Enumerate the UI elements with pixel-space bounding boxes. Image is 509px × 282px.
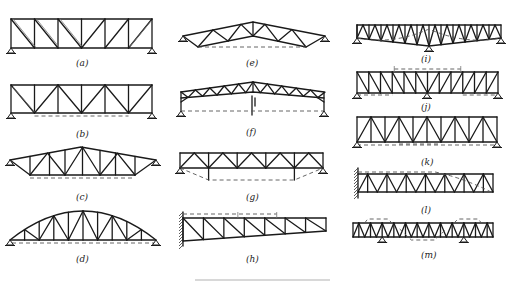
- truss-member: [237, 153, 251, 168]
- truss-member: [435, 223, 441, 237]
- panel-label-f: (f): [246, 127, 257, 137]
- truss-member: [309, 153, 323, 168]
- truss-member: [224, 86, 231, 94]
- truss-member: [416, 174, 426, 192]
- truss-member: [413, 117, 427, 142]
- truss-member: [411, 223, 417, 237]
- truss-panel-k: [352, 117, 502, 148]
- truss-member: [127, 230, 142, 240]
- truss-member: [423, 25, 429, 46]
- pin-support-icon: [6, 48, 16, 54]
- pin-support-icon: [424, 46, 434, 52]
- truss-member: [35, 19, 59, 48]
- truss-member: [194, 153, 208, 168]
- truss-panel-e: [178, 22, 330, 47]
- truss-member: [388, 223, 394, 237]
- truss-member: [359, 223, 365, 237]
- truss-member: [399, 117, 413, 142]
- truss-member: [463, 72, 475, 93]
- pin-support-icon: [147, 113, 157, 119]
- truss-member: [447, 25, 453, 43]
- truss-member: [476, 223, 482, 237]
- truss-member: [417, 223, 423, 237]
- truss-member: [429, 25, 435, 46]
- truss-member: [180, 153, 194, 168]
- truss-member: [369, 25, 375, 39]
- truss-panel-d: [5, 211, 161, 246]
- truss-member: [181, 98, 187, 102]
- truss-chord: [183, 22, 325, 36]
- truss-member: [455, 117, 469, 142]
- truss-member: [280, 153, 294, 168]
- panel-label-m: (m): [421, 250, 437, 260]
- double-line: [37, 19, 60, 47]
- tie-line: [180, 168, 323, 180]
- truss-panel-g: [175, 153, 328, 180]
- pin-support-icon: [6, 113, 16, 119]
- truss-member: [446, 223, 452, 237]
- truss-member: [241, 24, 253, 36]
- truss-member: [195, 90, 202, 96]
- pin-support-icon: [493, 93, 503, 99]
- truss-member: [363, 25, 369, 39]
- truss-member: [397, 174, 407, 192]
- truss-member: [58, 85, 82, 113]
- truss-member: [265, 218, 285, 234]
- truss-member: [394, 223, 400, 237]
- truss-member: [25, 230, 40, 240]
- truss-member: [11, 19, 35, 48]
- truss-member: [441, 223, 447, 237]
- double-line: [130, 21, 152, 47]
- truss-member: [368, 174, 378, 192]
- truss-member: [357, 25, 363, 38]
- truss-member: [246, 82, 253, 93]
- truss-member: [83, 147, 101, 175]
- truss-member: [474, 174, 484, 192]
- double-line: [13, 87, 35, 112]
- truss-member: [83, 211, 98, 240]
- pin-support-icon: [319, 111, 329, 117]
- truss-member: [365, 223, 371, 237]
- truss-member: [82, 19, 106, 48]
- truss-member: [210, 88, 217, 95]
- panel-label-g: (g): [246, 192, 259, 202]
- truss-member: [213, 30, 228, 41]
- truss-member: [475, 72, 487, 93]
- truss-member: [387, 174, 397, 192]
- truss-member: [477, 25, 483, 41]
- truss-member: [105, 85, 129, 113]
- truss-figure: (a) (b) (c) (d) (e) (f) (g) (h) (i) (j) …: [0, 0, 509, 282]
- truss-member: [98, 216, 113, 240]
- panel-label-a: (a): [76, 58, 89, 68]
- truss-member: [385, 117, 399, 142]
- truss-member: [406, 174, 416, 192]
- pin-support-icon: [176, 111, 186, 117]
- truss-member: [371, 223, 377, 237]
- truss-member: [481, 223, 487, 237]
- truss-member: [35, 85, 59, 113]
- truss-member: [428, 72, 440, 93]
- truss-member: [381, 72, 393, 93]
- truss-member: [112, 216, 127, 240]
- truss-member: [303, 90, 310, 96]
- truss-member: [224, 218, 244, 237]
- truss-member: [464, 223, 470, 237]
- truss-member: [260, 84, 267, 93]
- truss-member: [435, 25, 441, 45]
- truss-member: [426, 174, 436, 192]
- truss-member: [416, 72, 428, 93]
- truss-member: [318, 98, 324, 102]
- truss-member: [399, 25, 405, 43]
- truss-panel-a: [6, 19, 157, 54]
- truss-member: [306, 218, 326, 231]
- truss-member: [278, 30, 292, 42]
- truss-member: [10, 160, 30, 175]
- truss-member: [105, 19, 129, 48]
- double-line: [13, 19, 36, 47]
- pin-support-icon: [175, 168, 185, 174]
- truss-member: [65, 147, 83, 175]
- truss-chord: [183, 36, 325, 47]
- truss-member: [252, 153, 266, 168]
- truss-member: [82, 85, 106, 113]
- truss-panel-m: [353, 219, 493, 243]
